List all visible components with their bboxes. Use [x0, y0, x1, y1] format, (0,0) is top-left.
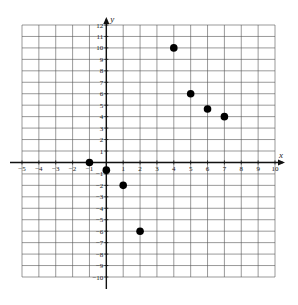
y-tick-label: 7	[100, 79, 104, 87]
y-tick-label: −5	[96, 216, 104, 224]
y-axis-label: y	[109, 14, 114, 24]
x-tick-label: 2	[138, 165, 142, 173]
y-tick-label: −4	[96, 205, 104, 213]
x-tick-label: 6	[206, 165, 210, 173]
x-tick-label: −5	[18, 165, 26, 173]
y-tick-label: 9	[100, 56, 104, 64]
x-tick-label: −4	[35, 165, 43, 173]
grid-lines	[22, 25, 275, 277]
scatter-chart: −5−4−3−2−112345678910−10−9−8−7−6−5−4−3−2…	[0, 0, 298, 305]
y-tick-label: 10	[96, 44, 104, 52]
data-point	[204, 105, 212, 113]
data-point	[119, 182, 127, 190]
data-point	[187, 90, 195, 98]
data-point	[86, 159, 94, 167]
y-tick-label: −8	[96, 251, 104, 259]
y-tick-label: −3	[96, 193, 104, 201]
y-tick-label: −7	[96, 239, 104, 247]
data-point	[103, 166, 111, 174]
x-tick-label: 1	[121, 165, 125, 173]
y-tick-label: −9	[96, 262, 104, 270]
x-tick-label: −2	[69, 165, 77, 173]
y-tick-label: 1	[100, 148, 104, 156]
x-tick-label: 4	[172, 165, 176, 173]
y-tick-label: 12	[96, 22, 104, 30]
y-tick-label: −2	[96, 182, 104, 190]
x-tick-label: −1	[86, 165, 94, 173]
data-point	[136, 227, 144, 235]
y-tick-label: 3	[100, 125, 104, 133]
x-tick-label: 9	[256, 165, 260, 173]
x-tick-label: 8	[240, 165, 244, 173]
data-point	[221, 113, 229, 121]
x-tick-label: −3	[52, 165, 60, 173]
data-point	[170, 44, 178, 52]
y-tick-label: −1	[96, 170, 104, 178]
y-tick-label: 5	[100, 102, 104, 110]
x-tick-label: 5	[189, 165, 193, 173]
y-tick-label: 2	[100, 136, 104, 144]
y-tick-label: −10	[92, 274, 103, 282]
y-tick-label: 11	[97, 33, 104, 41]
y-tick-label: −6	[96, 228, 104, 236]
x-axis-label: x	[278, 150, 283, 160]
y-tick-label: 8	[100, 67, 104, 75]
axes	[10, 17, 285, 289]
y-tick-label: 6	[100, 90, 104, 98]
y-axis-arrow-icon	[103, 17, 109, 24]
x-tick-label: 10	[272, 165, 280, 173]
y-tick-label: 4	[100, 113, 104, 121]
x-tick-label: 7	[223, 165, 227, 173]
x-tick-label: 3	[155, 165, 159, 173]
